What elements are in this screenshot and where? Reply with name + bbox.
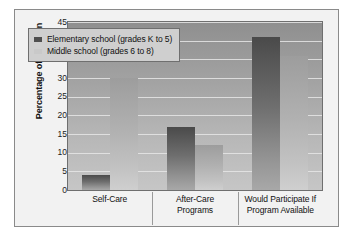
x-axis-tick-label: After-CarePrograms — [152, 194, 237, 226]
legend-item-label: Middle school (grades 6 to 8) — [47, 46, 154, 56]
legend-swatch-icon — [34, 37, 42, 42]
y-axis-tick-label: 20 — [41, 111, 67, 120]
legend-item-label: Elementary school (grades K to 5) — [47, 34, 172, 44]
bar[interactable] — [195, 145, 223, 190]
y-axis-tick-label: 0 — [41, 186, 67, 195]
x-axis-tick-label-line: After-Care — [152, 194, 237, 205]
legend-item[interactable]: Middle school (grades 6 to 8) — [34, 45, 172, 57]
y-axis-tick-label: 45 — [41, 18, 67, 27]
chart-legend: Elementary school (grades K to 5)Middle … — [28, 28, 180, 62]
x-axis-tick-label-line: Self-Care — [67, 194, 152, 205]
x-axis-separator — [238, 192, 239, 225]
x-axis-separator — [152, 192, 153, 225]
x-axis-tick-label-line: Program Available — [238, 205, 323, 216]
bar[interactable] — [252, 37, 280, 190]
bar[interactable] — [82, 175, 110, 190]
legend-swatch-icon — [34, 49, 42, 54]
y-axis-tick-label: 25 — [41, 92, 67, 101]
x-axis-tick-label-line: Programs — [152, 205, 237, 216]
y-axis-tick-label: 15 — [41, 130, 67, 139]
bar[interactable] — [280, 56, 308, 190]
legend-item[interactable]: Elementary school (grades K to 5) — [34, 33, 172, 45]
y-axis-tick-label: 5 — [41, 167, 67, 176]
x-axis-tick-label-line: Would Participate If — [238, 194, 323, 205]
chart-figure-frame: Percentage of Children 45403530252015105… — [14, 9, 339, 227]
y-axis-tick-label: 10 — [41, 148, 67, 157]
bar[interactable] — [167, 127, 195, 190]
x-axis-tick-labels: Self-CareAfter-CareProgramsWould Partici… — [67, 194, 323, 226]
bar[interactable] — [110, 78, 138, 190]
x-axis-tick-label: Would Participate IfProgram Available — [238, 194, 323, 226]
y-axis-tick-label: 30 — [41, 74, 67, 83]
x-axis-tick-label: Self-Care — [67, 194, 152, 226]
bar-group — [252, 22, 308, 190]
